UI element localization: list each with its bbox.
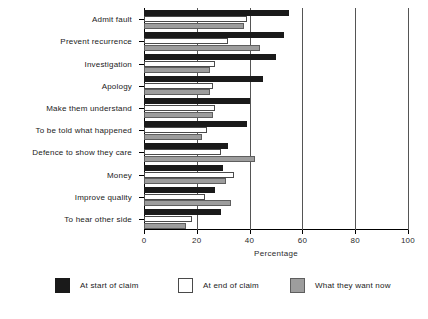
y-axis-label-5: To be told what happened [36,126,132,135]
bar-start-9 [144,209,221,215]
bar-start-8 [144,187,215,193]
y-axis-label-6: Defence to show they care [32,148,132,157]
bar-now-7 [144,178,226,184]
bar-now-4 [144,112,213,118]
x-tick-20 [197,230,198,234]
y-tick-1 [139,41,144,42]
bar-now-1 [144,45,260,51]
y-axis-labels: Admit faultPrevent recurrenceInvestigati… [0,8,138,230]
bar-now-0 [144,23,244,29]
bar-end-3 [144,83,213,89]
legend-swatch-now [290,278,305,293]
bar-end-4 [144,105,215,111]
y-tick-5 [139,130,144,131]
x-tick-label-60: 60 [298,236,308,245]
bar-now-5 [144,134,202,140]
bar-start-1 [144,32,284,38]
bar-start-4 [144,98,250,104]
bar-end-9 [144,216,192,222]
y-axis-label-0: Admit fault [92,15,132,24]
bar-start-3 [144,76,263,82]
x-tick-label-0: 0 [142,236,147,245]
legend-swatch-start [55,278,70,293]
bar-now-8 [144,200,231,206]
y-axis-label-7: Money [107,170,132,179]
x-tick-label-100: 100 [401,236,415,245]
x-tick-label-20: 20 [192,236,202,245]
x-tick-60 [302,230,303,234]
bar-end-8 [144,194,205,200]
y-axis-label-1: Prevent recurrence [60,37,132,46]
bar-end-1 [144,38,228,44]
legend-item-now: What they want now [290,278,391,293]
y-tick-6 [139,152,144,153]
bar-start-0 [144,10,289,16]
y-tick-9 [139,219,144,220]
y-tick-4 [139,108,144,109]
bar-start-6 [144,143,228,149]
gridline-60 [302,8,303,230]
y-tick-3 [139,86,144,87]
legend-swatch-end [178,278,193,293]
y-tick-0 [139,19,144,20]
legend-label-now: What they want now [315,281,391,290]
x-tick-40 [250,230,251,234]
y-axis-label-3: Apology [102,81,132,90]
y-tick-2 [139,64,144,65]
bar-end-2 [144,61,215,67]
bar-chart: Admit faultPrevent recurrenceInvestigati… [0,0,428,319]
legend-label-end: At end of claim [203,281,259,290]
gridline-40 [250,8,251,230]
bar-start-5 [144,121,247,127]
y-tick-8 [139,197,144,198]
y-axis-label-4: Make them understand [46,103,132,112]
bar-start-7 [144,165,223,171]
x-tick-label-40: 40 [245,236,255,245]
y-tick-7 [139,175,144,176]
bar-now-2 [144,67,210,73]
bar-now-6 [144,156,255,162]
x-tick-100 [408,230,409,234]
y-axis-label-8: Improve quality [75,192,132,201]
gridline-100 [408,8,409,230]
bar-now-3 [144,89,210,95]
legend-item-start: At start of claim [55,278,139,293]
bar-now-9 [144,223,186,229]
legend-item-end: At end of claim [178,278,259,293]
x-tick-80 [355,230,356,234]
x-axis-title: Percentage [144,249,408,258]
bar-end-7 [144,172,234,178]
bar-end-5 [144,127,207,133]
legend-label-start: At start of claim [80,281,139,290]
y-axis-label-2: Investigation [84,59,132,68]
bar-start-2 [144,54,276,60]
x-tick-label-80: 80 [350,236,360,245]
x-tick-0 [144,230,145,234]
plot-area [144,8,408,230]
bar-end-6 [144,149,221,155]
y-axis-label-9: To hear other side [64,214,132,223]
bar-end-0 [144,16,247,22]
chart-legend: At start of claimAt end of claimWhat the… [0,278,428,302]
gridline-80 [355,8,356,230]
